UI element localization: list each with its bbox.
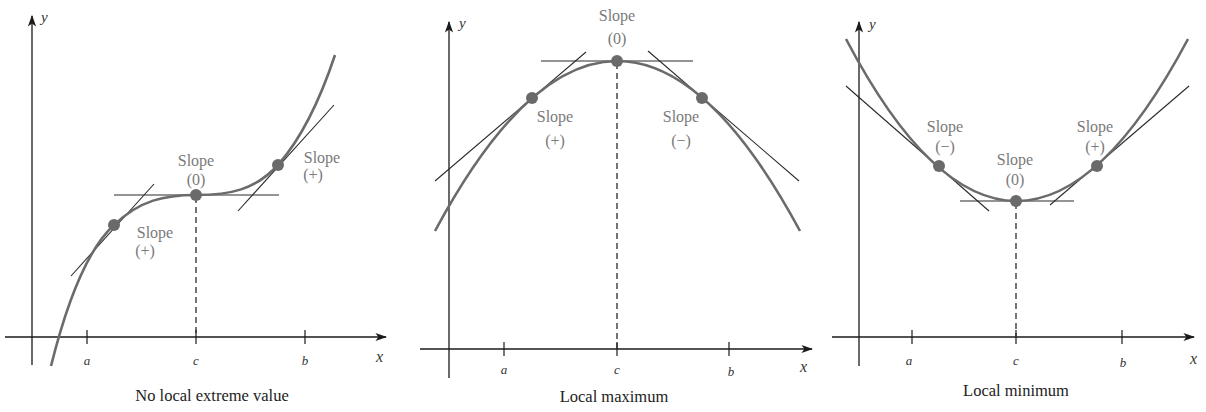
point-left: [933, 160, 945, 172]
point-left: [526, 92, 538, 104]
point-right: [272, 159, 284, 171]
tangent-right: [1050, 86, 1189, 205]
label-sign-c: (0): [608, 30, 627, 48]
point-c: [1010, 195, 1022, 207]
label-slope-c: Slope: [178, 152, 214, 170]
label-sign-left: (−): [935, 138, 955, 156]
figure-canvas: y x a c b Slope (0) Slope (+) Slope (+) …: [0, 0, 1206, 412]
point-c: [611, 55, 623, 67]
caption: Local minimum: [963, 381, 1069, 400]
panel-local-minimum: y x a c b Slope (−) Slope (0) Slope (+) …: [832, 16, 1197, 400]
point-left: [108, 219, 120, 231]
tick-label-a: a: [501, 362, 508, 377]
label-sign-left: (+): [545, 132, 565, 150]
x-axis-label: x: [799, 358, 807, 375]
caption: Local maximum: [560, 387, 669, 406]
label-sign-c: (0): [187, 171, 206, 189]
tick-label-b: b: [728, 364, 735, 379]
point-right: [1091, 160, 1103, 172]
caption: No local extreme value: [135, 386, 288, 405]
y-axis-label: y: [39, 9, 48, 25]
x-axis-label: x: [1189, 350, 1197, 367]
tick-label-b: b: [1120, 355, 1127, 370]
y-axis-label: y: [457, 15, 466, 31]
tick-label-c: c: [193, 353, 199, 368]
x-axis-label: x: [375, 348, 383, 365]
tick-label-c: c: [1013, 353, 1019, 368]
label-slope-left: Slope: [137, 224, 173, 242]
panel-local-maximum: y x a c b Slope (0) Slope (+) Slope (−) …: [420, 7, 812, 406]
label-slope-c: Slope: [997, 151, 1033, 169]
point-right: [696, 92, 708, 104]
label-sign-right: (−): [671, 132, 691, 150]
tick-label-b: b: [302, 353, 309, 368]
tangent-left: [846, 86, 989, 211]
tick-label-a: a: [84, 353, 91, 368]
panel-no-extreme: y x a c b Slope (0) Slope (+) Slope (+) …: [5, 9, 386, 405]
cubic-curve: [51, 55, 335, 366]
point-c: [190, 189, 202, 201]
label-slope-left: Slope: [927, 118, 963, 136]
label-sign-c: (0): [1006, 171, 1025, 189]
label-sign-right: (+): [303, 166, 323, 184]
label-slope-c: Slope: [599, 7, 635, 25]
tick-label-c: c: [614, 362, 620, 377]
label-slope-left: Slope: [537, 108, 573, 126]
tick-label-a: a: [906, 353, 913, 368]
y-axis-label: y: [867, 16, 876, 32]
label-slope-right: Slope: [663, 108, 699, 126]
label-slope-right: Slope: [1077, 118, 1113, 136]
label-slope-right: Slope: [304, 149, 340, 167]
label-sign-left: (+): [135, 242, 155, 260]
label-sign-right: (+): [1085, 138, 1105, 156]
